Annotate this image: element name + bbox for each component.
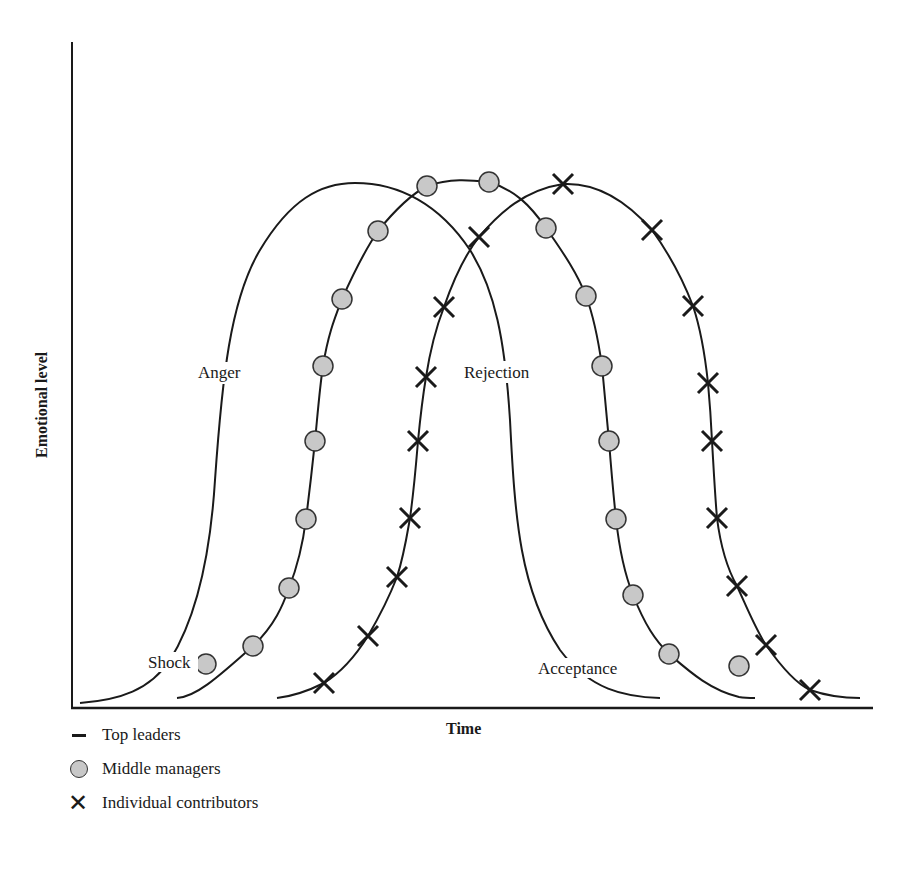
top-leaders-curve bbox=[80, 183, 660, 703]
stage-label-acceptance: Acceptance bbox=[538, 659, 617, 678]
legend-label: Top leaders bbox=[102, 725, 181, 745]
individual-contributors-markers bbox=[314, 174, 820, 700]
legend: Top leaders Middle managers ✕ Individual… bbox=[70, 718, 258, 820]
x-mark-icon: ✕ bbox=[70, 792, 92, 814]
legend-item-top-leaders: Top leaders bbox=[70, 718, 258, 752]
stage-label-anger: Anger bbox=[198, 363, 241, 382]
legend-item-individual-contributors: ✕ Individual contributors bbox=[70, 786, 258, 820]
legend-item-middle-managers: Middle managers bbox=[70, 752, 258, 786]
stage-label-shock: Shock bbox=[148, 653, 191, 672]
legend-label: Middle managers bbox=[102, 759, 221, 779]
stage-label-rejection: Rejection bbox=[464, 363, 530, 382]
x-axis-label: Time bbox=[446, 720, 481, 737]
legend-label: Individual contributors bbox=[102, 793, 258, 813]
circle-icon bbox=[70, 758, 92, 780]
line-icon bbox=[70, 724, 92, 746]
y-axis-label: Emotional level bbox=[33, 351, 50, 458]
